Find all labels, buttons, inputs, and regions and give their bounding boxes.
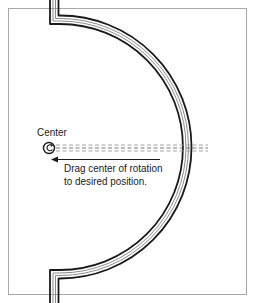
diagram-canvas bbox=[0, 0, 253, 303]
rotate-center-icon[interactable] bbox=[44, 143, 55, 154]
instruction-label: Drag center of rotation to desired posit… bbox=[64, 162, 162, 187]
wall-grey-line-2 bbox=[56, 0, 189, 303]
wall-grey-line-1 bbox=[53, 0, 186, 303]
arrow-left-icon bbox=[51, 157, 58, 163]
curved-wall[interactable] bbox=[50, 0, 192, 303]
instruction-line-2: to desired position. bbox=[64, 175, 162, 188]
center-circle bbox=[44, 143, 55, 154]
wall-outer-line bbox=[50, 0, 183, 303]
instruction-line-1: Drag center of rotation bbox=[64, 162, 162, 175]
center-label: Center bbox=[37, 126, 67, 138]
dashed-axis bbox=[56, 145, 208, 151]
